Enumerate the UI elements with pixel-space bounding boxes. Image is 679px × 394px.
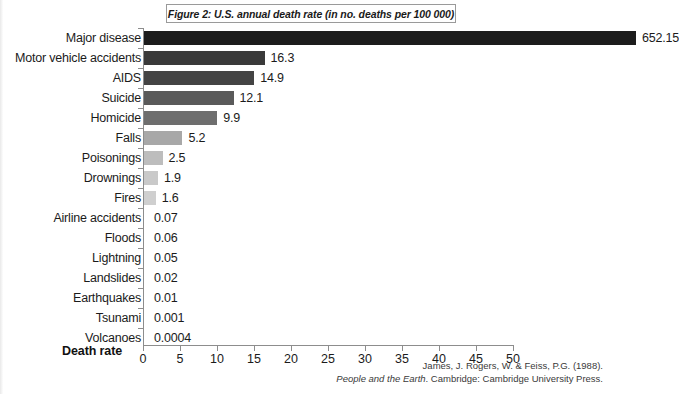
bar <box>144 91 234 105</box>
category-label: Airline accidents <box>53 208 141 228</box>
bar-value-label: 0.05 <box>154 248 178 268</box>
bar-row: Landslides0.02 <box>0 268 613 288</box>
x-axis-tick-label: 10 <box>202 352 232 366</box>
source-line-1: James, J. Rogers, W. & Feiss, P.G. (1988… <box>336 359 603 372</box>
bar-row: Earthquakes0.01 <box>0 288 613 308</box>
x-axis-tick <box>217 345 218 351</box>
x-axis-tick-label: 0 <box>128 352 158 366</box>
figure-title: Figure 2: U.S. annual death rate (in no.… <box>166 4 456 23</box>
x-axis-tick-label: 5 <box>165 352 195 366</box>
bar-row: Major disease652.15 <box>0 28 613 48</box>
bar <box>144 151 163 165</box>
category-label: Fires <box>114 188 141 208</box>
bar-row: Motor vehicle accidents16.3 <box>0 48 613 68</box>
bar-value-label: 2.5 <box>169 148 186 168</box>
category-label: Suicide <box>101 88 141 108</box>
bar-value-label: 0.0004 <box>154 328 191 348</box>
x-axis-tick <box>180 345 181 351</box>
bar <box>144 191 156 205</box>
bar <box>144 131 182 145</box>
bar-value-label: 12.1 <box>240 88 264 108</box>
category-label: Landslides <box>83 268 141 288</box>
bar-value-label: 16.3 <box>271 48 295 68</box>
x-axis-tick-label: 20 <box>276 352 306 366</box>
category-label: Poisonings <box>82 148 141 168</box>
x-axis-tick <box>513 345 514 351</box>
category-label: Major disease <box>66 28 141 48</box>
bar-value-label: 0.06 <box>154 228 178 248</box>
bar-row: Suicide12.1 <box>0 88 613 108</box>
bar-row: Floods0.06 <box>0 228 613 248</box>
bar-value-label: 0.07 <box>154 208 178 228</box>
bar-chart: Major disease652.15Motor vehicle acciden… <box>0 28 613 348</box>
bar-value-label: 14.9 <box>260 68 284 88</box>
x-axis-tick <box>365 345 366 351</box>
category-label: Earthquakes <box>73 288 141 308</box>
bar-row: Airline accidents0.07 <box>0 208 613 228</box>
bar <box>144 51 265 65</box>
bar-row: Poisonings2.5 <box>0 148 613 168</box>
bar-value-label: 652.15 <box>642 28 679 48</box>
x-axis-tick <box>254 345 255 351</box>
x-axis-tick <box>476 345 477 351</box>
bar-value-label: 0.001 <box>154 308 184 328</box>
x-axis-tick <box>439 345 440 351</box>
bar-value-label: 1.9 <box>164 168 181 188</box>
category-label: Homicide <box>91 108 142 128</box>
bar-row: AIDS14.9 <box>0 68 613 88</box>
bar-value-label: 0.01 <box>154 288 178 308</box>
x-axis-tick <box>402 345 403 351</box>
bar-row: Fires1.6 <box>0 188 613 208</box>
bar-value-label: 5.2 <box>188 128 205 148</box>
category-label: Tsunami <box>96 308 141 328</box>
x-axis-tick <box>291 345 292 351</box>
source-citation: James, J. Rogers, W. & Feiss, P.G. (1988… <box>336 359 603 385</box>
category-label: Falls <box>116 128 141 148</box>
bar-value-label: 0.02 <box>154 268 178 288</box>
x-axis-tick-label: 15 <box>239 352 269 366</box>
bar-row: Homicide9.9 <box>0 108 613 128</box>
source-book-title: People and the Earth <box>336 373 425 384</box>
category-label: Motor vehicle accidents <box>15 48 141 68</box>
bar-value-label: 1.6 <box>162 188 179 208</box>
bar-value-label: 9.9 <box>223 108 240 128</box>
source-line-2: People and the Earth. Cambridge: Cambrid… <box>336 372 603 385</box>
x-axis-tick <box>328 345 329 351</box>
bar <box>144 111 217 125</box>
category-label: Drownings <box>84 168 141 188</box>
bar-row: Drownings1.9 <box>0 168 613 188</box>
bar <box>144 31 636 45</box>
x-axis-title: Death rate <box>62 344 122 358</box>
source-publisher: . Cambridge: Cambridge University Press. <box>426 373 603 384</box>
category-label: Floods <box>105 228 141 248</box>
bar-row: Tsunami0.001 <box>0 308 613 328</box>
category-label: Lightning <box>92 248 141 268</box>
x-axis-tick <box>143 345 144 351</box>
bar-row: Lightning0.05 <box>0 248 613 268</box>
bar-row: Falls5.2 <box>0 128 613 148</box>
category-label: AIDS <box>113 68 141 88</box>
bar <box>144 171 158 185</box>
bar <box>144 71 254 85</box>
